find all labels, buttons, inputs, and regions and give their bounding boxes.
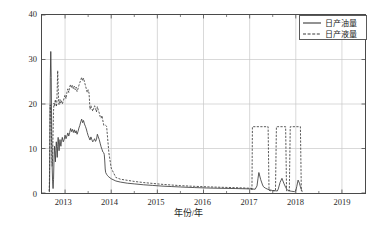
- y-tick-label-0: 0: [11, 190, 37, 199]
- legend: 日产油量 日产液量: [299, 15, 367, 40]
- legend-item-oil: 日产油量: [303, 18, 363, 28]
- y-tick-label-30: 30: [11, 55, 37, 64]
- solid-line-icon: [303, 19, 321, 27]
- x-tick-label-2019: 2019: [322, 198, 362, 207]
- x-tick-label-2014: 2014: [90, 198, 130, 207]
- x-tick-label-2017: 2017: [229, 198, 269, 207]
- x-tick-label-2018: 2018: [275, 198, 315, 207]
- x-axis-title: 年份/年: [0, 208, 377, 218]
- dashed-line-icon: [303, 30, 321, 38]
- legend-label-liquid: 日产液量: [325, 30, 357, 39]
- legend-label-oil: 日产油量: [325, 19, 357, 28]
- y-tick-label-10: 10: [11, 145, 37, 154]
- production-decline-chart: 日产油量、日产液量/(m3 · d-1) 40 30 20 10 0 2013 …: [0, 0, 377, 234]
- x-tick-label-2013: 2013: [43, 198, 83, 207]
- y-tick-label-40: 40: [11, 10, 37, 19]
- x-tick-label-2015: 2015: [136, 198, 176, 207]
- series-line-oil: [49, 51, 302, 192]
- y-tick-label-20: 20: [11, 100, 37, 109]
- x-tick-label-2016: 2016: [183, 198, 223, 207]
- plot-area: 日产油量 日产液量: [41, 14, 366, 194]
- data-series-layer: [42, 15, 365, 193]
- legend-item-liquid: 日产液量: [303, 29, 363, 39]
